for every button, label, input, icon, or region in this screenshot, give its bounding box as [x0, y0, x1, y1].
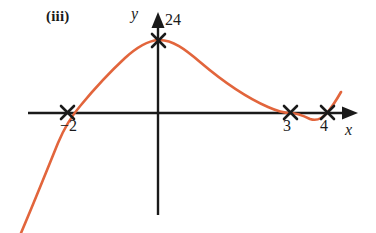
- y-axis-arrowhead-icon: [152, 12, 165, 28]
- x-axis-label: x: [345, 121, 352, 139]
- x-tick-label-4: 4: [320, 117, 328, 135]
- graph-figure: (iii): [0, 0, 376, 233]
- cubic-curve: [21, 40, 341, 233]
- y-intercept-label: 24: [165, 11, 181, 29]
- x-axis-arrowhead-icon: [342, 107, 358, 120]
- x-tick-label-3: 3: [283, 117, 291, 135]
- x-tick-label-neg2: −2: [60, 117, 77, 135]
- y-axis-label: y: [131, 5, 138, 23]
